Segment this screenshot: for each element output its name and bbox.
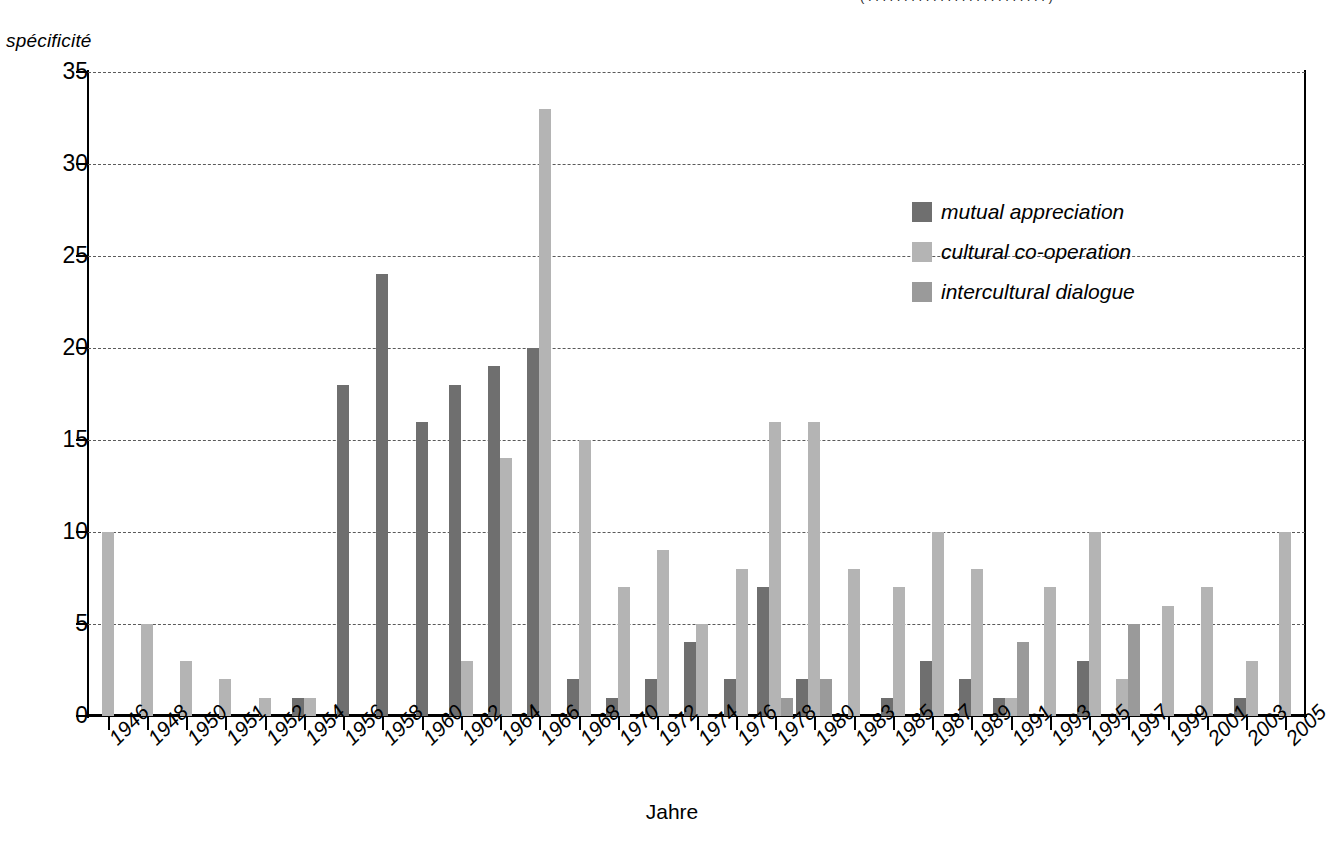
bar-1983-series-1 (848, 569, 860, 716)
bar-group-1958 (363, 72, 402, 716)
bar-group-1985 (873, 72, 912, 716)
legend-item-0: mutual appreciation (912, 192, 1135, 232)
bar-1980-series-1 (808, 422, 820, 716)
bar-group-1993 (1030, 72, 1069, 716)
bar-2001-series-1 (1201, 587, 1213, 716)
bar-group-1950 (167, 72, 206, 716)
bar-group-1976 (716, 72, 755, 716)
bar-group-1948 (127, 72, 166, 716)
bar-group-1964 (481, 72, 520, 716)
bar-1999-series-1 (1162, 606, 1174, 716)
bar-1970-series-1 (618, 587, 630, 716)
bar-group-1989 (952, 72, 991, 716)
bar-1993-series-1 (1044, 587, 1056, 716)
legend-label-0: mutual appreciation (941, 200, 1124, 224)
x-axis-title: Jahre (0, 800, 1344, 824)
bar-group-1974 (677, 72, 716, 716)
bar-1980-series-2 (820, 679, 832, 716)
bar-1991-series-2 (1017, 642, 1029, 716)
bar-group-1960 (402, 72, 441, 716)
bar-1987-series-1 (932, 532, 944, 716)
bar-group-1980 (795, 72, 834, 716)
bar-2003-series-1 (1246, 661, 1258, 716)
legend-swatch-icon-1 (912, 242, 932, 262)
bar-group-1995 (1069, 72, 1108, 716)
y-tick-mark-35 (76, 71, 88, 73)
bar-1964-series-0 (488, 366, 500, 716)
bar-group-1972 (638, 72, 677, 716)
y-tick-mark-0 (76, 715, 88, 717)
bar-1997-series-2 (1128, 624, 1140, 716)
plot-area (88, 72, 1305, 716)
bar-group-1997 (1109, 72, 1148, 716)
bar-group-1968 (559, 72, 598, 716)
bar-1978-series-1 (769, 422, 781, 716)
top-cropped-text-artifact: ( . . . . . . . . . . . . . . . . . . . … (0, 0, 1344, 16)
bar-1966-series-0 (527, 348, 539, 716)
bar-group-1946 (88, 72, 127, 716)
bar-group-1991 (991, 72, 1030, 716)
y-axis-ticks: 05101520253035 (0, 0, 88, 850)
bar-1962-series-1 (461, 661, 473, 716)
legend-item-2: intercultural dialogue (912, 272, 1135, 312)
bar-1958-series-0 (376, 274, 388, 716)
top-cropped-text-fragment: ( . . . . . . . . . . . . . . . . . . . … (860, 0, 1053, 4)
bar-group-1954 (284, 72, 323, 716)
bar-1995-series-1 (1089, 532, 1101, 716)
y-tick-mark-5 (76, 623, 88, 625)
legend-swatch-icon-0 (912, 202, 932, 222)
bar-group-1978 (755, 72, 794, 716)
bar-1972-series-1 (657, 550, 669, 716)
bar-1985-series-1 (893, 587, 905, 716)
bar-group-1956 (324, 72, 363, 716)
bar-group-2003 (1226, 72, 1265, 716)
bar-1974-series-1 (696, 624, 708, 716)
bar-group-1987 (912, 72, 951, 716)
y-tick-mark-15 (76, 439, 88, 441)
bar-group-1970 (598, 72, 637, 716)
bar-1966-series-1 (539, 109, 551, 716)
bar-group-1962 (441, 72, 480, 716)
legend-item-1: cultural co-operation (912, 232, 1135, 272)
bar-group-2005 (1266, 72, 1305, 716)
bar-1962-series-0 (449, 385, 461, 716)
bar-group-1952 (245, 72, 284, 716)
bar-1978-series-0 (757, 587, 769, 716)
bar-1960-series-0 (416, 422, 428, 716)
bar-1948-series-1 (141, 624, 153, 716)
bar-group-1999 (1148, 72, 1187, 716)
bar-group-2001 (1187, 72, 1226, 716)
bar-2005-series-1 (1279, 532, 1291, 716)
legend-label-1: cultural co-operation (941, 240, 1131, 264)
y-tick-mark-30 (76, 163, 88, 165)
bar-1968-series-1 (579, 440, 591, 716)
bar-1964-series-1 (500, 458, 512, 716)
bar-group-1951 (206, 72, 245, 716)
legend-label-2: intercultural dialogue (941, 280, 1135, 304)
bar-1946-series-1 (102, 532, 114, 716)
bar-1989-series-1 (971, 569, 983, 716)
bar-1976-series-1 (736, 569, 748, 716)
y-tick-mark-25 (76, 255, 88, 257)
bar-group-1966 (520, 72, 559, 716)
bar-group-1983 (834, 72, 873, 716)
y-tick-mark-20 (76, 347, 88, 349)
chart-legend: mutual appreciationcultural co-operation… (912, 192, 1135, 312)
legend-swatch-icon-2 (912, 282, 932, 302)
y-tick-mark-10 (76, 531, 88, 533)
bar-1956-series-0 (337, 385, 349, 716)
